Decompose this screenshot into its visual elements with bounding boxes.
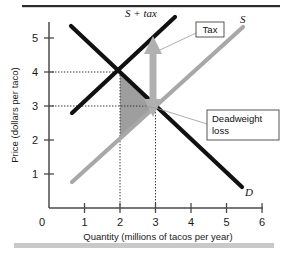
demand-label: D	[244, 186, 253, 198]
tax-annotation: Tax	[196, 22, 224, 37]
origin-label: 0	[39, 216, 45, 228]
x-tick-label-5: 5	[223, 216, 229, 228]
x-axis-title: Quantity (millions of tacos per year)	[83, 231, 232, 242]
y-tick-label-4: 4	[32, 66, 38, 78]
x-tick-label-1: 1	[81, 216, 87, 228]
supply-plus-tax-label: S + tax	[125, 7, 157, 19]
supply-demand-tax-chart: Tax Deadweight loss S + tax S D 5 4 3 2 …	[0, 0, 287, 255]
y-tick-label-1: 1	[32, 168, 38, 180]
y-axis-title: Price (dollars per taco)	[9, 67, 20, 163]
y-tick-label-5: 5	[32, 32, 38, 44]
deadweight-loss-annotation: Deadweight loss	[207, 110, 279, 140]
y-tick-label-3: 3	[32, 100, 38, 112]
bottom-bar	[14, 243, 274, 248]
tax-annotation-label: Tax	[203, 24, 218, 35]
x-tick-label-3: 3	[152, 216, 158, 228]
tax-leader-line	[160, 33, 196, 50]
supply-label: S	[240, 13, 246, 25]
y-tick-label-2: 2	[32, 134, 38, 146]
x-tick-label-4: 4	[188, 216, 194, 228]
deadweight-loss-label-line1: Deadweight	[212, 113, 263, 124]
x-tick-label-2: 2	[117, 216, 123, 228]
x-tick-label-6: 6	[259, 216, 265, 228]
figure-container: Tax Deadweight loss S + tax S D 5 4 3 2 …	[0, 0, 287, 255]
deadweight-loss-label-line2: loss	[212, 125, 229, 136]
